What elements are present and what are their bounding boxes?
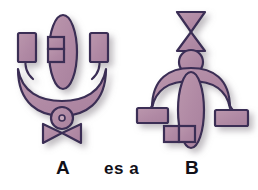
circle-center-hole <box>59 115 65 121</box>
top-vertical-hourglass <box>177 12 205 51</box>
right-rectangle <box>215 110 248 126</box>
hourglass-lower-triangle <box>177 32 205 51</box>
caption-row: A es a B <box>0 158 258 188</box>
figure-a <box>18 15 108 143</box>
middle-rect-upper-cell <box>48 37 64 49</box>
middle-divided-rectangle <box>48 37 64 62</box>
lower-rect-right-cell <box>179 126 195 142</box>
right-rectangle <box>90 33 108 62</box>
middle-rect-lower-cell <box>48 49 64 62</box>
figure-b <box>137 12 248 148</box>
lower-divided-rectangle <box>164 126 195 142</box>
image-canvas: A es a B <box>0 0 258 190</box>
lower-rect-left-cell <box>164 126 179 142</box>
caption-label-b: B <box>185 158 199 177</box>
left-rectangle <box>137 108 168 123</box>
hourglass-upper-triangle <box>177 12 205 32</box>
caption-label-middle: es a <box>104 160 139 177</box>
left-rectangle <box>18 33 36 62</box>
caption-label-a: A <box>56 158 70 177</box>
